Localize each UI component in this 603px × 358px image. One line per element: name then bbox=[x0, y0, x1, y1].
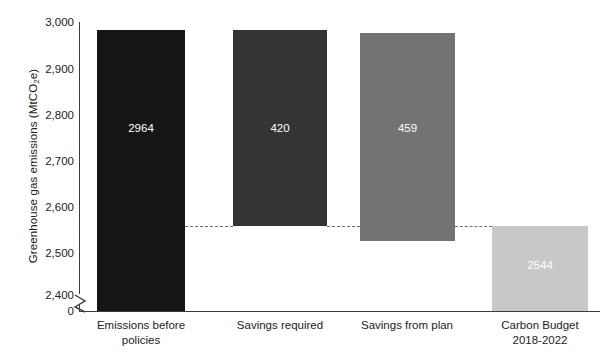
x-axis-category-label: Savings from plan bbox=[347, 318, 467, 333]
bar-value-label: 2544 bbox=[492, 259, 588, 271]
waterfall-connector-line bbox=[185, 226, 233, 227]
bar-value-label: 459 bbox=[360, 122, 455, 134]
x-axis-category-label-line: Savings from plan bbox=[347, 318, 467, 333]
plot-area: 2964Emissions beforepolicies420Savings r… bbox=[0, 0, 603, 358]
waterfall-connector-line bbox=[455, 226, 492, 227]
x-axis-category-label: Carbon Budget2018-2022 bbox=[478, 318, 602, 348]
bar-value-label: 420 bbox=[233, 122, 327, 134]
x-axis-category-label-line: 2018-2022 bbox=[478, 333, 602, 348]
bar[interactable] bbox=[97, 30, 185, 311]
x-axis-category-label: Emissions beforepolicies bbox=[77, 318, 205, 348]
bar[interactable] bbox=[360, 33, 455, 241]
x-axis-category-label-line: Savings required bbox=[220, 318, 340, 333]
waterfall-chart: Greenhouse gas emissions (MtCO2e) 2,4002… bbox=[0, 0, 603, 358]
waterfall-connector-line bbox=[327, 226, 360, 227]
x-axis-category-label-line: policies bbox=[77, 333, 205, 348]
x-axis-category-label-line: Emissions before bbox=[77, 318, 205, 333]
x-axis-category-label: Savings required bbox=[220, 318, 340, 333]
x-axis-category-label-line: Carbon Budget bbox=[478, 318, 602, 333]
bar-value-label: 2964 bbox=[97, 122, 185, 134]
